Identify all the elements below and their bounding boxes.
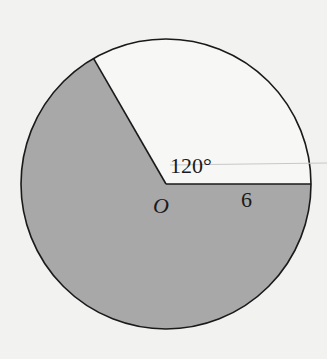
radius-label: 6 [241,187,252,212]
angle-label: 120° [170,153,212,178]
circle-sector-diagram: 120° O 6 [0,0,327,359]
center-label: O [153,193,169,218]
